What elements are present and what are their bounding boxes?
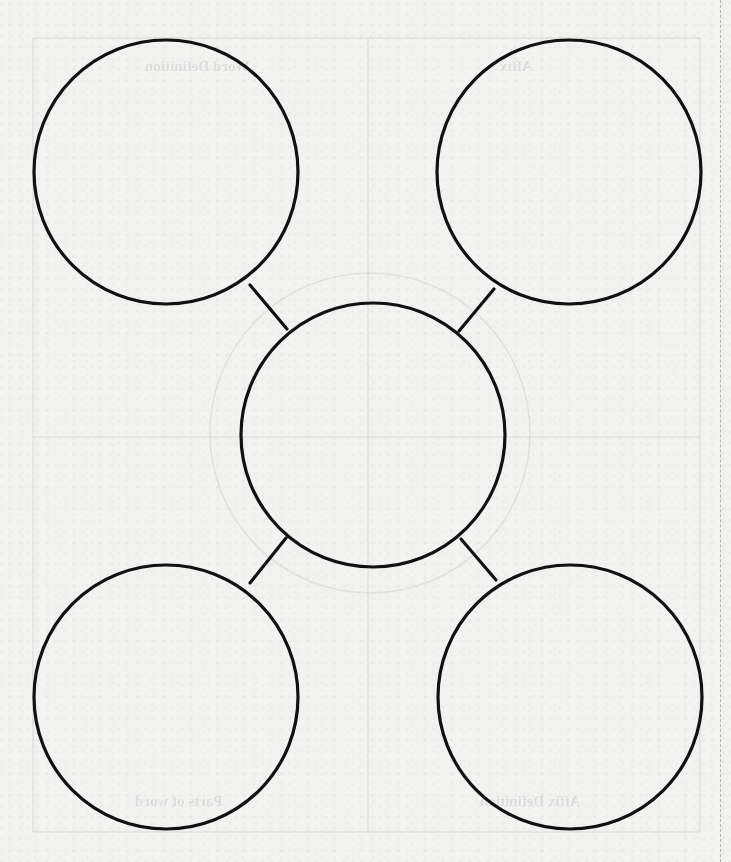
connector-top-left <box>250 285 287 329</box>
circle-organizer <box>0 0 731 862</box>
connector-bottom-right <box>461 539 496 580</box>
circle-top-right[interactable] <box>437 40 701 304</box>
connector-bottom-left <box>250 538 286 583</box>
circle-bottom-left[interactable] <box>34 565 298 829</box>
circle-center[interactable] <box>241 303 505 567</box>
circle-top-left[interactable] <box>34 40 298 304</box>
connector-top-right <box>459 289 494 331</box>
circle-bottom-right[interactable] <box>438 565 702 829</box>
